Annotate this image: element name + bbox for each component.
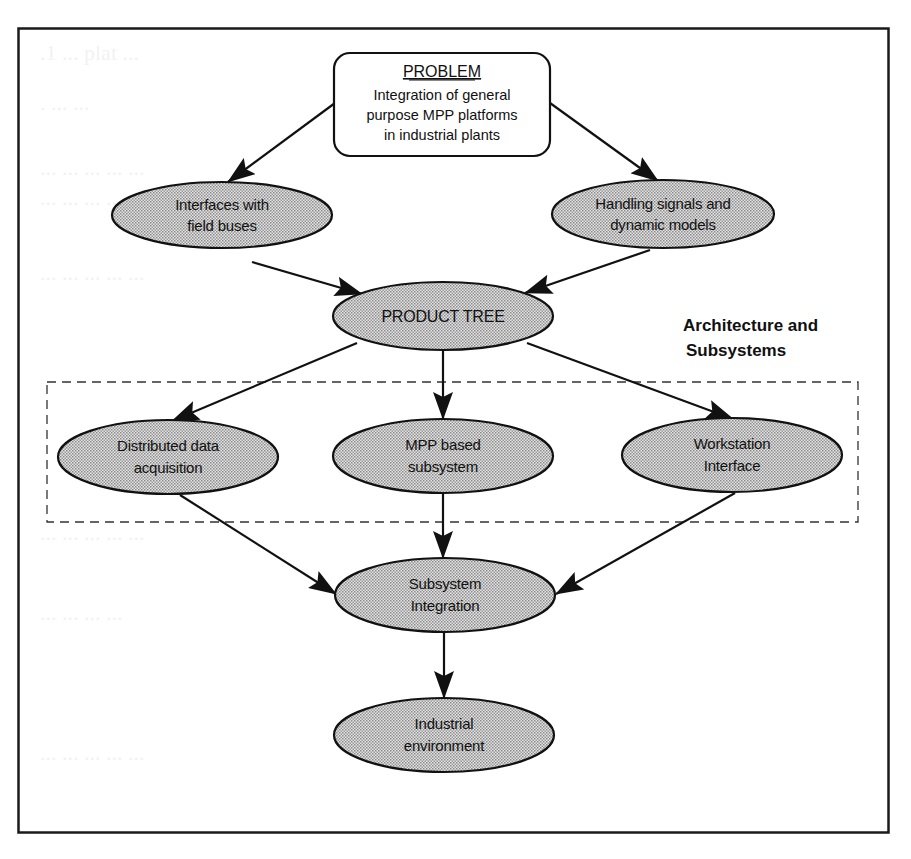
node-label-line-1: Subsystem [409,575,481,592]
problem-line-1: Integration of general [373,87,510,103]
problem-line-3: in industrial plants [384,127,500,143]
node-label-line-1: Handling signals and [595,195,730,212]
edge-interfaces-to-product-tree [252,262,362,294]
diagram-figure: .1 ... plat ... . ... ... ... ... ... ..… [0,0,911,859]
svg-text:... ... ... ...: ... ... ... ... [40,600,123,625]
node-distributed-data-acquisition: Distributed data acquisition [58,420,278,494]
group-label-line-2: Subsystems [686,341,786,360]
svg-text:... ... ... ...: ... ... ... ... ... [40,520,145,545]
problem-title: PROBLEM [403,63,481,80]
bleed-through-text: .1 ... plat ... . ... ... ... ... ... ..… [40,40,145,765]
edge-distributed-to-integration [180,495,336,594]
group-label-line-1: Architecture and [683,316,818,335]
node-industrial-environment: Industrial environment [334,698,554,772]
node-label-line-1: Workstation [694,435,771,452]
node-label-line-2: field buses [187,217,257,234]
node-label-line-1: MPP based [405,436,480,453]
node-label-line-2: Integration [411,597,480,614]
problem-line-2: purpose MPP platforms [366,107,517,123]
svg-text:... ... ... ...: ... ... ... ... ... [40,260,145,285]
node-interfaces-field-buses: Interfaces with field buses [112,182,332,248]
node-label-line-2: acquisition [134,459,203,476]
edge-problem-to-interfaces [228,103,335,182]
node-handling-signals: Handling signals and dynamic models [552,180,774,248]
svg-text:. ... ...: . ... ... [40,90,90,115]
svg-text:.1 ... plat ...: .1 ... plat ... [40,40,139,65]
edge-handling-to-product-tree [525,250,650,293]
svg-text:... ... ... ...: ... ... ... ... ... [40,740,145,765]
node-label-line-2: dynamic models [610,216,716,233]
node-label-line-1: Industrial [415,715,474,732]
problem-box: PROBLEM Integration of general purpose M… [334,53,550,156]
node-mpp-based-subsystem: MPP based subsystem [333,419,553,493]
diagram-canvas: .1 ... plat ... . ... ... ... ... ... ..… [0,0,911,859]
node-workstation-interface: Workstation Interface [622,418,842,492]
node-label-line-2: subsystem [408,458,478,475]
node-label-line-1: Distributed data [117,437,220,454]
node-product-tree: PRODUCT TREE [333,282,553,350]
node-label-line-1: Interfaces with [175,196,269,213]
edge-workstation-to-integration [556,493,735,594]
node-subsystem-integration: Subsystem Integration [335,558,555,632]
node-label-line-2: Interface [704,457,761,474]
node-label-line-2: environment [404,737,485,754]
edge-problem-to-handling [550,103,658,181]
svg-text:... ... ... ...: ... ... ... ... ... [40,155,145,180]
node-label-line-1: PRODUCT TREE [381,308,504,325]
